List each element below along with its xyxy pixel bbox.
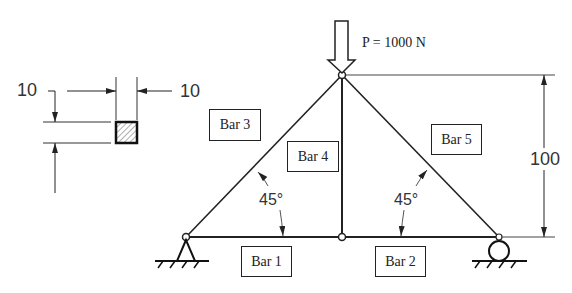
bar5-label: Bar 5 [431,124,482,155]
section-height-label: 10 [17,81,37,99]
cross-section-detail [43,77,172,193]
bar2-label: Bar 2 [375,246,426,277]
square-section [116,122,137,143]
load-label: P = 1000 N [362,36,426,50]
bar1-label: Bar 1 [241,246,292,277]
node-bottom-middle [339,234,346,241]
bar5-line [342,75,499,237]
roller-support-icon [472,241,527,268]
section-width-label: 10 [180,82,200,100]
height-dimension-label: 100 [530,150,560,168]
truss-diagram: 10 10 P = 1000 N 100 45° 45° Bar 3 Bar 4… [0,0,572,293]
load-arrow-icon [328,21,355,73]
pin-support-icon [155,240,209,268]
bar3-label: Bar 3 [209,109,261,141]
bar4-label: Bar 4 [287,141,339,172]
height-dimension [346,75,555,237]
truss-members [186,75,499,237]
height-dim-leader-top [48,91,55,122]
angle-label-right: 45° [394,192,418,208]
angle-label-left: 45° [259,192,283,208]
node-right [496,234,502,240]
